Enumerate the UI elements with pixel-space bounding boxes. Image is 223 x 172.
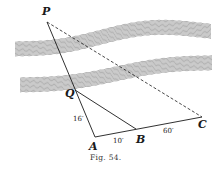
point-label-Q: Q — [65, 87, 75, 100]
line-QB — [75, 90, 136, 129]
river-bank-lower — [20, 56, 212, 92]
measure-BC: 60′ — [163, 127, 174, 135]
measure-AB: 10′ — [113, 137, 124, 145]
river-bank-upper — [15, 20, 211, 56]
line-AC — [95, 117, 202, 137]
measure-AQ: 16′ — [73, 115, 84, 123]
point-label-B: B — [135, 133, 145, 146]
diagram-canvas: P Q A B C 16′ 10′ 60′ Fig. 54. — [0, 0, 223, 172]
point-label-A: A — [88, 140, 98, 153]
figure-caption: Fig. 54. — [90, 153, 122, 162]
point-label-P: P — [41, 5, 51, 18]
point-label-C: C — [198, 118, 207, 131]
